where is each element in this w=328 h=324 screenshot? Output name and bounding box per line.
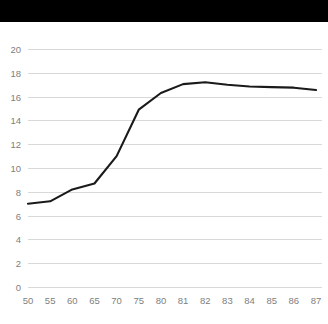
x-tick-label: 50 [23, 295, 34, 306]
y-tick-label: 6 [16, 211, 21, 222]
y-tick-label: 20 [10, 44, 21, 55]
chart-canvas: 02468101214161820 5055606570758081828384… [0, 22, 328, 324]
y-tick-label: 4 [16, 234, 21, 245]
x-tick-labels-group: 5055606570758081828384858687 [23, 295, 322, 306]
x-tick-label: 60 [67, 295, 78, 306]
x-tick-label: 75 [133, 295, 144, 306]
data-series-line [28, 82, 316, 203]
x-tick-label: 70 [111, 295, 122, 306]
line-chart-figure: 02468101214161820 5055606570758081828384… [0, 22, 328, 324]
y-tick-label: 18 [10, 68, 21, 79]
y-tick-label: 14 [10, 115, 21, 126]
x-tick-label: 83 [222, 295, 233, 306]
y-tick-label: 10 [10, 163, 21, 174]
x-tick-label: 87 [311, 295, 322, 306]
y-tick-label: 0 [16, 282, 21, 293]
x-tick-label: 81 [178, 295, 189, 306]
x-tick-label: 86 [289, 295, 300, 306]
x-tick-label: 84 [244, 295, 255, 306]
y-tick-label: 16 [10, 92, 21, 103]
y-tick-label: 8 [16, 187, 21, 198]
x-tick-label: 55 [45, 295, 56, 306]
y-tick-labels-group: 02468101214161820 [10, 44, 21, 293]
x-tick-label: 82 [200, 295, 211, 306]
top-banner [0, 0, 328, 22]
x-tick-label: 85 [266, 295, 277, 306]
x-tick-label: 65 [89, 295, 100, 306]
screenshot-root: 02468101214161820 5055606570758081828384… [0, 0, 328, 324]
gridlines-group [28, 50, 322, 288]
y-tick-label: 12 [10, 139, 21, 150]
y-tick-label: 2 [16, 258, 21, 269]
x-tick-label: 80 [156, 295, 167, 306]
